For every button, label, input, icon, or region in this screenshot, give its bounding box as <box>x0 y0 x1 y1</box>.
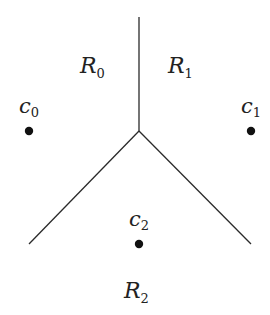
diagram-svg: R0 R1 R2 c0 c1 c2 <box>0 0 270 315</box>
centroid-dot-c1 <box>247 127 255 135</box>
boundary-r1-r2 <box>139 131 251 244</box>
region-label-r1: R1 <box>167 53 193 81</box>
centroid-label-c0: c0 <box>19 94 39 120</box>
centroid-dot-c2 <box>135 240 143 248</box>
boundary-r0-r2 <box>29 131 139 244</box>
voronoi-diagram: R0 R1 R2 c0 c1 c2 <box>0 0 270 315</box>
centroid-dot-c0 <box>25 127 33 135</box>
labels: R0 R1 R2 c0 c1 c2 <box>19 53 261 306</box>
region-label-r0: R0 <box>79 53 105 81</box>
region-label-r2: R2 <box>123 278 149 306</box>
centroid-label-c2: c2 <box>129 207 149 233</box>
centroid-label-c1: c1 <box>241 94 261 120</box>
